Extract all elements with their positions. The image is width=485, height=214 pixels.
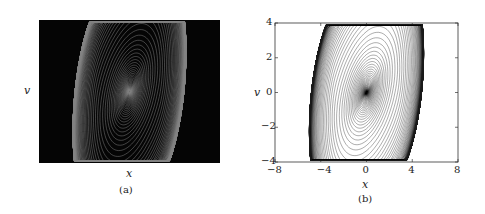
y-tick-label: 0: [266, 86, 272, 97]
panel-b: v x (b) −8−4048−4−2024: [240, 0, 485, 214]
y-axis-label-a: v: [24, 84, 30, 97]
y-tick-label: 2: [266, 51, 272, 62]
x-tick-label: 8: [454, 164, 460, 175]
attractor-image-a: [0, 0, 240, 214]
x-axis-label-b: x: [362, 178, 368, 191]
y-axis-label-b: v: [254, 86, 260, 99]
y-tick-label: 4: [266, 16, 272, 27]
x-tick-label: 0: [363, 164, 369, 175]
caption-b: (b): [358, 193, 372, 204]
y-tick-label: −2: [261, 120, 276, 131]
caption-a: (a): [119, 184, 133, 195]
x-tick-label: −4: [317, 164, 332, 175]
x-tick-label: 4: [408, 164, 414, 175]
panel-a: v x (a): [0, 0, 240, 214]
y-tick-label: −4: [261, 155, 276, 166]
x-axis-label-a: x: [126, 167, 132, 180]
